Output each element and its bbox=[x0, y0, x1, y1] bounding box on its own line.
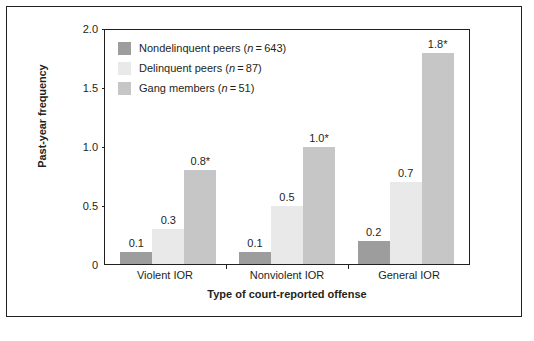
bar-group: 0.20.71.8* bbox=[358, 30, 454, 264]
bar-slot: 0.2 bbox=[358, 30, 390, 264]
legend-color-swatch bbox=[118, 62, 131, 75]
y-axis-tick-label: 0.5 bbox=[72, 200, 98, 212]
bar-value-label: 0.2 bbox=[366, 226, 381, 238]
figure-container: Past-year frequency 00.51.01.52.0 0.10.3… bbox=[0, 0, 534, 341]
bar-value-label: 1.0* bbox=[309, 132, 329, 144]
y-axis-tick-label: 0 bbox=[72, 259, 98, 271]
x-axis-category-label: Nonviolent IOR bbox=[232, 269, 342, 281]
bar-value-label: 1.8* bbox=[428, 38, 448, 50]
bar[interactable] bbox=[271, 206, 303, 265]
chart-legend: Nondelinquent peers (n = 643)Delinquent … bbox=[118, 38, 286, 98]
bar-value-label: 0.8* bbox=[191, 155, 211, 167]
bar-value-label: 0.7 bbox=[398, 167, 413, 179]
legend-item-label: Nondelinquent peers (n = 643) bbox=[139, 42, 286, 54]
legend-color-swatch bbox=[118, 82, 131, 95]
bar-value-label: 0.3 bbox=[161, 214, 176, 226]
y-axis-label: Past-year frequency bbox=[36, 26, 48, 206]
bar[interactable] bbox=[422, 53, 454, 264]
bar[interactable] bbox=[358, 241, 390, 264]
x-axis-label: Type of court-reported offense bbox=[104, 288, 470, 300]
x-axis-category-label: Violent IOR bbox=[110, 269, 220, 281]
bar[interactable] bbox=[390, 182, 422, 264]
bar[interactable] bbox=[303, 147, 335, 264]
legend-item[interactable]: Nondelinquent peers (n = 643) bbox=[118, 38, 286, 58]
bar-slot: 0.7 bbox=[390, 30, 422, 264]
bar-value-label: 0.1 bbox=[247, 237, 262, 249]
bar-value-label: 0.1 bbox=[129, 237, 144, 249]
bar-slot: 1.0* bbox=[303, 30, 335, 264]
x-axis-category-labels: Violent IORNonviolent IORGeneral IOR bbox=[104, 269, 470, 281]
bar[interactable] bbox=[239, 252, 271, 264]
bar[interactable] bbox=[152, 229, 184, 264]
bar[interactable] bbox=[120, 252, 152, 264]
y-axis-tick-label: 2.0 bbox=[72, 23, 98, 35]
x-axis-category-label: General IOR bbox=[354, 269, 464, 281]
legend-item-label: Gang members (n = 51) bbox=[139, 82, 254, 94]
bar-value-label: 0.5 bbox=[279, 191, 294, 203]
bar-slot: 1.8* bbox=[422, 30, 454, 264]
legend-item[interactable]: Gang members (n = 51) bbox=[118, 78, 286, 98]
legend-item-label: Delinquent peers (n = 87) bbox=[139, 62, 262, 74]
y-axis-tick-label: 1.0 bbox=[72, 141, 98, 153]
y-axis-tick-label: 1.5 bbox=[72, 82, 98, 94]
bar[interactable] bbox=[184, 170, 216, 264]
legend-item[interactable]: Delinquent peers (n = 87) bbox=[118, 58, 286, 78]
legend-color-swatch bbox=[118, 42, 131, 55]
y-axis-tick-labels: 00.51.01.52.0 bbox=[72, 0, 98, 341]
